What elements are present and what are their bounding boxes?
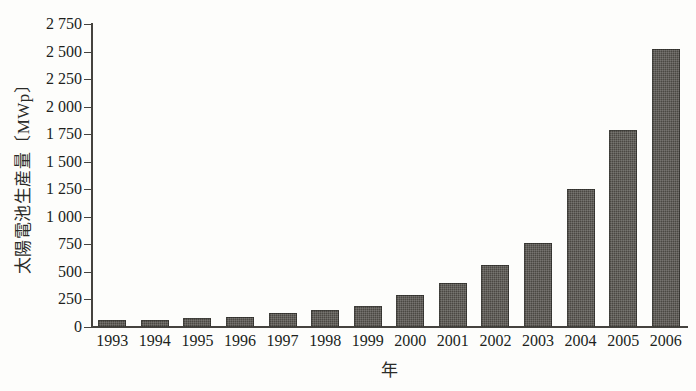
y-tick-label: 2 250	[46, 71, 82, 87]
y-tick-mark	[84, 189, 91, 190]
y-tick-label: 1 250	[46, 181, 82, 197]
bar	[183, 318, 211, 327]
y-tick-mark	[84, 162, 91, 163]
x-tick-label: 1996	[224, 333, 256, 349]
y-tick-label: 1 500	[46, 154, 82, 170]
x-tick-label: 2003	[522, 333, 554, 349]
bar	[524, 243, 552, 327]
x-tick-label: 1999	[352, 333, 384, 349]
y-tick-mark	[84, 79, 91, 80]
x-tick-label: 1994	[139, 333, 171, 349]
y-tick-mark	[84, 299, 91, 300]
plot-area: 02505007501 0001 2501 5001 7502 0002 250…	[91, 24, 687, 327]
bar	[226, 317, 254, 327]
y-tick-mark	[84, 24, 91, 25]
y-tick-mark	[84, 244, 91, 245]
x-axis-title: 年	[91, 356, 688, 381]
bar	[396, 295, 424, 327]
x-tick-label: 2004	[565, 333, 597, 349]
y-tick-label: 2 750	[46, 16, 82, 32]
x-tick-label: 2002	[479, 333, 511, 349]
bar	[481, 265, 509, 327]
y-tick-mark	[84, 272, 91, 273]
y-tick-label: 1 000	[46, 209, 82, 225]
y-tick-mark	[84, 134, 91, 135]
y-tick-label: 1 750	[46, 126, 82, 142]
bar	[269, 313, 297, 327]
bar	[652, 49, 680, 327]
y-tick-mark	[84, 52, 91, 53]
bar	[567, 189, 595, 327]
bar	[141, 320, 169, 327]
x-tick-label: 2005	[607, 333, 639, 349]
y-tick-label: 500	[58, 264, 82, 280]
bar	[311, 310, 339, 327]
y-tick-label: 2 000	[46, 99, 82, 115]
y-tick-label: 250	[58, 291, 82, 307]
bar	[98, 320, 126, 327]
bar-chart: 太陽電池生産量〔MWp〕 02505007501 0001 2501 5001 …	[0, 0, 696, 391]
bar	[609, 130, 637, 327]
y-tick-mark	[84, 327, 91, 328]
y-tick-label: 2 500	[46, 44, 82, 60]
y-tick-mark	[84, 107, 91, 108]
bar	[354, 306, 382, 327]
bar	[439, 283, 467, 327]
x-tick-label: 2000	[394, 333, 426, 349]
x-tick-label: 1995	[181, 333, 213, 349]
y-tick-label: 0	[74, 319, 82, 335]
x-tick-label: 1993	[96, 333, 128, 349]
x-tick-label: 2006	[650, 333, 682, 349]
y-axis-title: 太陽電池生産量〔MWp〕	[4, 10, 38, 340]
y-tick-mark	[84, 217, 91, 218]
x-tick-label: 2001	[437, 333, 469, 349]
y-tick-label: 750	[58, 236, 82, 252]
x-tick-label: 1997	[267, 333, 299, 349]
x-tick-label: 1998	[309, 333, 341, 349]
